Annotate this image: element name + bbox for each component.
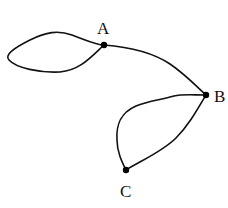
- label-a: A: [97, 19, 110, 38]
- edge-b-c-lower: [126, 95, 206, 170]
- edge-loop-a: [8, 32, 104, 72]
- edge-b-c-upper: [117, 95, 206, 170]
- edge-a-b: [104, 45, 206, 95]
- label-c: C: [120, 182, 131, 201]
- node-c: [123, 167, 129, 173]
- graph-diagram: A B C: [0, 0, 228, 208]
- node-b: [203, 92, 209, 98]
- node-a: [101, 42, 107, 48]
- label-b: B: [214, 87, 225, 106]
